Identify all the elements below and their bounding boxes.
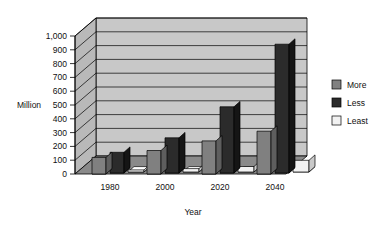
bar-2020-more bbox=[202, 136, 222, 175]
legend-item-less[interactable]: Less bbox=[332, 98, 365, 108]
x-tick-label-1980: 1980 bbox=[101, 182, 120, 192]
y-tick-label-300: 300 bbox=[53, 128, 67, 138]
legend-label-more: More bbox=[347, 80, 367, 90]
x-axis: 1980 2000 2020 2040 Year bbox=[101, 182, 285, 217]
x-tick-label-2040: 2040 bbox=[266, 182, 285, 192]
y-tick-label-100: 100 bbox=[53, 155, 67, 165]
y-axis-title: Million bbox=[17, 100, 41, 110]
legend-swatch-less bbox=[332, 98, 341, 107]
legend: More Less Least bbox=[332, 80, 368, 126]
x-axis-title: Year bbox=[184, 207, 201, 217]
legend-item-more[interactable]: More bbox=[332, 80, 367, 90]
x-tick-label-2020: 2020 bbox=[211, 182, 230, 192]
y-tick-label-800: 800 bbox=[53, 59, 67, 69]
y-tick-label-500: 500 bbox=[53, 100, 67, 110]
bar-2000-less bbox=[165, 132, 185, 173]
legend-label-least: Least bbox=[347, 116, 368, 126]
y-tick-label-700: 700 bbox=[53, 72, 67, 82]
chart-canvas: 0 100 200 300 400 500 600 700 800 900 1,… bbox=[0, 0, 391, 231]
bar-2020-less bbox=[220, 101, 240, 173]
y-tick-label-0: 0 bbox=[62, 169, 67, 179]
legend-label-less: Less bbox=[347, 98, 365, 108]
legend-swatch-least bbox=[332, 116, 341, 125]
bar-2040-less bbox=[275, 39, 295, 173]
bar-chart-figure: 0 100 200 300 400 500 600 700 800 900 1,… bbox=[0, 0, 391, 231]
bar-2040-more bbox=[257, 126, 277, 174]
y-tick-label-900: 900 bbox=[53, 45, 67, 55]
y-tick-label-200: 200 bbox=[53, 141, 67, 151]
legend-item-least[interactable]: Least bbox=[332, 116, 368, 126]
x-tick-label-2000: 2000 bbox=[156, 182, 175, 192]
y-tick-label-600: 600 bbox=[53, 86, 67, 96]
y-tick-label-400: 400 bbox=[53, 114, 67, 124]
legend-swatch-more bbox=[332, 80, 341, 89]
y-tick-label-1000: 1,000 bbox=[46, 31, 68, 41]
y-axis: 0 100 200 300 400 500 600 700 800 900 1,… bbox=[17, 31, 75, 179]
